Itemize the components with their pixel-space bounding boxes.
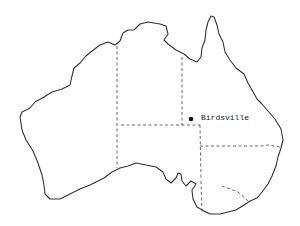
australia-map [0,0,300,226]
border-sa-vic [201,181,202,212]
border-qld-nsw [200,145,280,147]
birdsville-marker-icon [189,117,194,122]
border-sa-nsw [200,125,201,180]
birdsville-label: Birdsville [201,113,249,122]
border-nsw-vic [222,186,249,202]
